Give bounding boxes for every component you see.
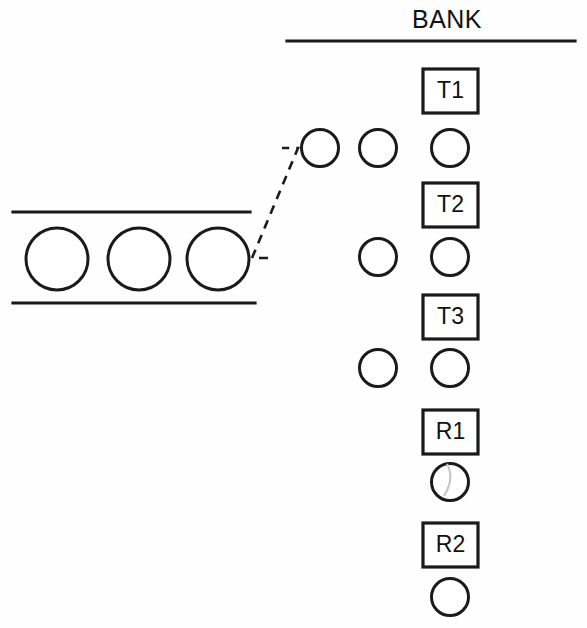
- bank-slot-circle-r2[interactable]: [432, 579, 469, 616]
- bank-slot-label-t3: T3: [437, 303, 464, 329]
- bank-diagram: BANK T1 T2 T3 R1 R2: [0, 0, 587, 628]
- tray-circle-3[interactable]: [187, 228, 249, 290]
- bank-slot-circle-t3[interactable]: [432, 350, 469, 387]
- bank-slot-circle-t2[interactable]: [432, 239, 469, 276]
- diagram-canvas: BANK T1 T2 T3 R1 R2: [0, 0, 587, 628]
- incoming-circle[interactable]: [302, 130, 339, 167]
- bank-slot-label-t2: T2: [437, 191, 464, 217]
- bank-slot-label-r2: R2: [436, 531, 465, 557]
- staged-circle-row1[interactable]: [360, 130, 397, 167]
- staged-circle-row3[interactable]: [360, 350, 397, 387]
- tray-circle-2[interactable]: [108, 228, 170, 290]
- bank-slot-circle-t1[interactable]: [432, 130, 469, 167]
- bank-slot-label-r1: R1: [436, 418, 465, 444]
- dashed-leader-line: [252, 148, 298, 258]
- bank-slot-label-t1: T1: [437, 77, 464, 103]
- tray-circle-1[interactable]: [26, 228, 88, 290]
- bank-title: BANK: [412, 5, 482, 33]
- staged-circle-row2[interactable]: [360, 239, 397, 276]
